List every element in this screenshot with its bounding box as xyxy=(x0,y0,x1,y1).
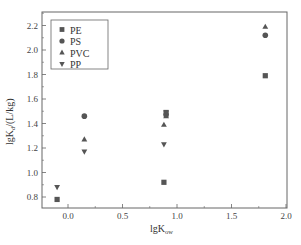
legend-label: PP xyxy=(70,59,82,70)
data-point-pe xyxy=(161,180,166,185)
x-tick-label: 2.0 xyxy=(280,211,292,221)
data-point-ps xyxy=(82,113,88,119)
y-axis-ticks: 0.81.01.21.41.61.82.02.2 xyxy=(27,13,46,202)
scatter-chart: 0.81.01.21.41.61.82.02.2 0.00.51.01.52.0… xyxy=(0,0,301,245)
x-tick-label: 1.5 xyxy=(226,211,238,221)
y-axis-title: lgKd/(L/kg) xyxy=(4,98,16,145)
data-point-pp xyxy=(161,142,167,147)
data-point-pe xyxy=(263,73,268,78)
y-tick-label: 1.8 xyxy=(27,70,39,80)
x-axis-title: lgKow xyxy=(150,223,173,235)
data-point-pvc xyxy=(161,122,167,127)
x-tick-label: 0.0 xyxy=(62,211,74,221)
x-tick-label: 1.0 xyxy=(171,211,183,221)
data-point-pp xyxy=(81,150,87,155)
x-tick-label: 0.5 xyxy=(117,211,129,221)
y-tick-label: 0.8 xyxy=(27,192,39,202)
y-tick-label: 2.0 xyxy=(27,45,39,55)
x-axis-ticks: 0.00.51.01.52.0 xyxy=(62,204,292,221)
data-point-pp xyxy=(54,185,60,190)
legend-label: PS xyxy=(70,36,81,47)
y-tick-label: 1.0 xyxy=(27,168,39,178)
legend: PEPSPVCPP xyxy=(51,20,108,70)
data-point-ps xyxy=(262,33,268,39)
y-tick-label: 1.2 xyxy=(27,143,38,153)
y-tick-label: 1.4 xyxy=(27,119,39,129)
legend-marker-pe xyxy=(60,27,65,32)
legend-label: PE xyxy=(70,25,82,36)
y-tick-label: 1.6 xyxy=(27,94,39,104)
data-point-pvc xyxy=(262,24,268,29)
legend-marker-ps xyxy=(59,38,64,43)
legend-label: PVC xyxy=(70,48,90,59)
y-tick-label: 2.2 xyxy=(27,21,38,31)
data-point-pvc xyxy=(81,136,87,141)
data-point-pe xyxy=(55,197,60,202)
